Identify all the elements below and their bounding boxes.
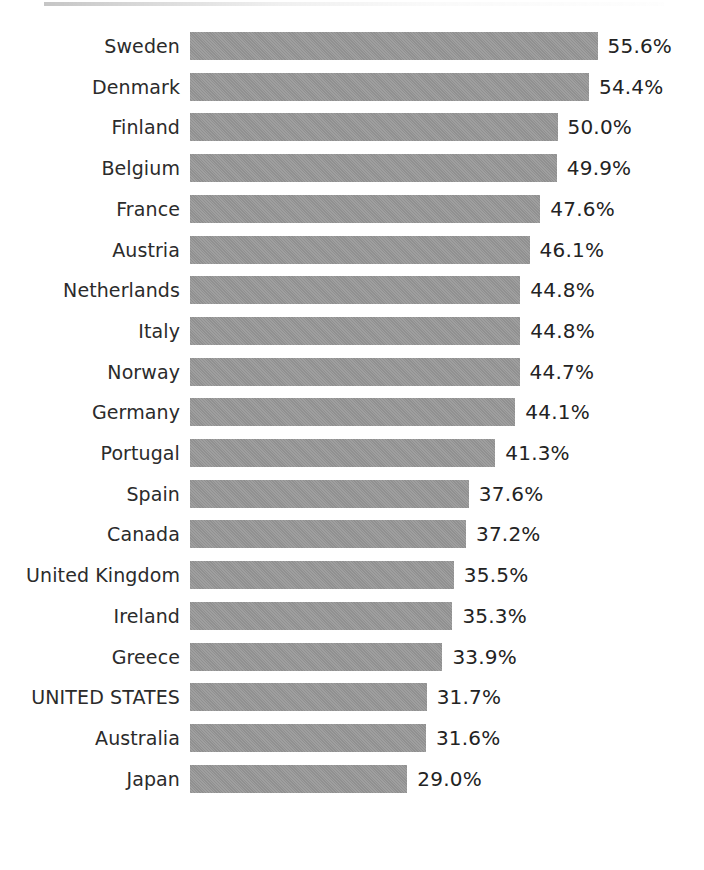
- bar: [190, 439, 495, 467]
- bar-row: United Kingdom35.5%: [0, 561, 704, 589]
- bar-row: Germany44.1%: [0, 398, 704, 426]
- bar-row: Finland50.0%: [0, 113, 704, 141]
- bar: [190, 480, 469, 508]
- bar-track: 31.7%: [190, 683, 704, 711]
- bar-row: Belgium49.9%: [0, 154, 704, 182]
- bar-track: 47.6%: [190, 195, 704, 223]
- value-label: 37.6%: [479, 480, 544, 508]
- bar-row: Denmark54.4%: [0, 73, 704, 101]
- value-label: 44.8%: [530, 317, 595, 345]
- bar: [190, 113, 558, 141]
- value-label: 50.0%: [568, 113, 633, 141]
- bar: [190, 358, 520, 386]
- bar-row: Italy44.8%: [0, 317, 704, 345]
- value-label: 35.3%: [462, 602, 527, 630]
- bar-track: 49.9%: [190, 154, 704, 182]
- category-label: Canada: [107, 520, 180, 548]
- bar-track: 29.0%: [190, 765, 704, 793]
- category-label: Germany: [92, 398, 180, 426]
- category-label: Belgium: [101, 154, 180, 182]
- bar: [190, 561, 454, 589]
- category-label: France: [116, 195, 180, 223]
- bar: [190, 236, 530, 264]
- bar-track: 33.9%: [190, 643, 704, 671]
- value-label: 49.9%: [567, 154, 632, 182]
- category-label: United Kingdom: [26, 561, 180, 589]
- bar-row: Netherlands44.8%: [0, 276, 704, 304]
- bar-track: 55.6%: [190, 32, 704, 60]
- bar-row: Australia31.6%: [0, 724, 704, 752]
- category-label: Australia: [95, 724, 180, 752]
- bar-row: Japan29.0%: [0, 765, 704, 793]
- bar-track: 37.2%: [190, 520, 704, 548]
- value-label: 37.2%: [476, 520, 541, 548]
- bar-track: 44.8%: [190, 276, 704, 304]
- value-label: 44.1%: [525, 398, 590, 426]
- horizontal-bar-chart: Sweden55.6%Denmark54.4%Finland50.0%Belgi…: [0, 0, 704, 870]
- category-label: Netherlands: [63, 276, 180, 304]
- value-label: 33.9%: [452, 643, 517, 671]
- bar: [190, 765, 407, 793]
- bar-row: Norway44.7%: [0, 358, 704, 386]
- category-label: Finland: [111, 113, 180, 141]
- bar-track: 54.4%: [190, 73, 704, 101]
- category-label: Norway: [107, 358, 180, 386]
- bar: [190, 602, 452, 630]
- chart-page: Sweden55.6%Denmark54.4%Finland50.0%Belgi…: [0, 0, 704, 870]
- bar: [190, 683, 427, 711]
- bar-row: Portugal41.3%: [0, 439, 704, 467]
- value-label: 55.6%: [608, 32, 673, 60]
- value-label: 29.0%: [417, 765, 482, 793]
- value-label: 31.6%: [436, 724, 501, 752]
- bar-row: Austria46.1%: [0, 236, 704, 264]
- bar-row: Greece33.9%: [0, 643, 704, 671]
- value-label: 31.7%: [437, 683, 502, 711]
- category-label: Italy: [138, 317, 180, 345]
- value-label: 41.3%: [505, 439, 570, 467]
- value-label: 46.1%: [540, 236, 605, 264]
- bar: [190, 32, 598, 60]
- bar-track: 50.0%: [190, 113, 704, 141]
- bar: [190, 643, 442, 671]
- bar: [190, 398, 515, 426]
- category-label: Greece: [112, 643, 180, 671]
- bar-row: Canada37.2%: [0, 520, 704, 548]
- bar-row: UNITED STATES31.7%: [0, 683, 704, 711]
- bar: [190, 154, 557, 182]
- bar: [190, 724, 426, 752]
- category-label: Spain: [126, 480, 180, 508]
- category-label: Portugal: [101, 439, 181, 467]
- bar-row: Spain37.6%: [0, 480, 704, 508]
- value-label: 44.8%: [530, 276, 595, 304]
- category-label: Sweden: [104, 32, 180, 60]
- value-label: 54.4%: [599, 73, 664, 101]
- category-label: Japan: [127, 765, 181, 793]
- category-label: UNITED STATES: [31, 683, 180, 711]
- bar-row: Sweden55.6%: [0, 32, 704, 60]
- bar-track: 37.6%: [190, 480, 704, 508]
- bar-track: 46.1%: [190, 236, 704, 264]
- category-label: Denmark: [92, 73, 180, 101]
- bar: [190, 520, 466, 548]
- bar-track: 44.8%: [190, 317, 704, 345]
- bar-track: 35.5%: [190, 561, 704, 589]
- bar-track: 31.6%: [190, 724, 704, 752]
- value-label: 47.6%: [550, 195, 615, 223]
- bar-row: France47.6%: [0, 195, 704, 223]
- bar: [190, 317, 520, 345]
- category-label: Ireland: [114, 602, 180, 630]
- bar-track: 35.3%: [190, 602, 704, 630]
- bar: [190, 73, 589, 101]
- bar: [190, 195, 540, 223]
- bar-row: Ireland35.3%: [0, 602, 704, 630]
- bar-track: 41.3%: [190, 439, 704, 467]
- value-label: 35.5%: [464, 561, 529, 589]
- bar: [190, 276, 520, 304]
- value-label: 44.7%: [530, 358, 595, 386]
- bar-track: 44.7%: [190, 358, 704, 386]
- bar-track: 44.1%: [190, 398, 704, 426]
- category-label: Austria: [112, 236, 180, 264]
